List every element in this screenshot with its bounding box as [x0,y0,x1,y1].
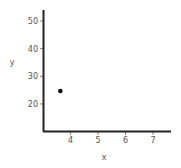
data-point [58,89,63,94]
y-axis-label: y [10,58,15,67]
x-tick-label: 7 [151,136,156,145]
y-axis-ticks: 20304050 [28,17,44,109]
y-tick-label: 50 [28,17,38,26]
data-points [58,89,63,94]
y-tick-label: 30 [28,72,38,81]
x-axis-label: x [102,153,107,162]
x-tick-label: 6 [123,136,128,145]
x-tick-label: 4 [68,136,73,145]
x-tick-label: 5 [96,136,101,145]
y-tick-label: 20 [28,100,38,109]
scatter-chart: 20304050 4567 y x [0,0,181,168]
y-tick-label: 40 [28,45,38,54]
x-axis-ticks: 4567 [68,131,156,145]
